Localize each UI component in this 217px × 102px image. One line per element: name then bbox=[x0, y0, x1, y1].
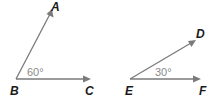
angle-measure-b: 60° bbox=[27, 66, 44, 78]
angle-measure-e: 30° bbox=[155, 66, 172, 78]
point-label-b: B bbox=[10, 84, 19, 98]
point-label-c: C bbox=[85, 84, 94, 98]
arrowhead-f-icon bbox=[193, 76, 201, 83]
angle-abc: 60° A B C bbox=[10, 0, 94, 98]
angle-def: 30° D E F bbox=[125, 27, 207, 98]
point-label-f: F bbox=[199, 84, 207, 98]
arrowhead-c-icon bbox=[83, 76, 91, 83]
point-label-e: E bbox=[125, 84, 134, 98]
point-label-a: A bbox=[50, 0, 60, 14]
point-label-d: D bbox=[196, 27, 205, 41]
angles-diagram: 60° A B C 30° D E F bbox=[0, 0, 217, 102]
